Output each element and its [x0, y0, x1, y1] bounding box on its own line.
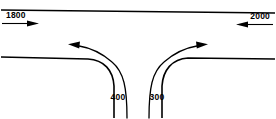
right-turn-volume-label: 300 [150, 92, 165, 102]
mainline-bottom-edge-right [162, 58, 275, 118]
traffic-diagram-container: 400 300 1800 2000 [0, 0, 276, 119]
left-turn-arrowhead-icon [68, 42, 80, 49]
mainline-eastbound-volume-label: 1800 [6, 10, 26, 20]
right-turn-flow-arc [149, 46, 199, 119]
left-turn-flow-arc [77, 46, 127, 119]
mainline-westbound-arrowhead-icon [236, 22, 248, 28]
traffic-diagram-canvas: 400 300 1800 2000 [0, 0, 276, 119]
mainline-eastbound-arrowhead-icon [27, 21, 39, 27]
mainline-top-edge [1, 10, 275, 13]
mainline-westbound-volume-label: 2000 [250, 11, 270, 21]
mainline-bottom-edge-left [1, 57, 114, 118]
left-turn-volume-label: 400 [111, 92, 126, 102]
right-turn-arrowhead-icon [196, 42, 208, 49]
